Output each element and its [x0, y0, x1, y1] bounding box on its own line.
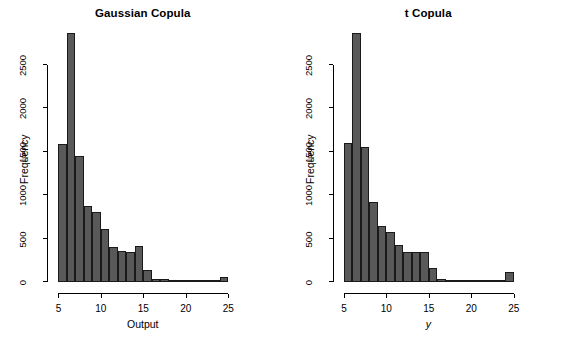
y-axis-tick-label: 2000 — [302, 92, 313, 126]
histogram-bar — [446, 280, 454, 282]
y-axis-title-gaussian: Frequency — [18, 134, 30, 184]
histogram-bar — [211, 280, 219, 282]
y-axis-tick — [329, 194, 333, 195]
histogram-bar — [344, 143, 352, 282]
histogram-bar — [58, 144, 66, 282]
x-axis-tick-label: 20 — [456, 303, 486, 314]
x-axis-title-gaussian: Output — [0, 318, 286, 330]
panel-title-gaussian: Gaussian Copula — [0, 7, 286, 19]
x-axis-tick-label: 5 — [329, 303, 359, 314]
panel-gaussian-copula: Gaussian Copula 050010001500200025005101… — [0, 0, 286, 337]
histogram-bar — [437, 279, 445, 282]
x-axis-tick-label: 15 — [414, 303, 444, 314]
histogram-bar — [386, 232, 394, 282]
x-axis-tick — [101, 294, 102, 298]
histogram-bar — [369, 202, 377, 282]
x-axis-title-t-copula: y — [286, 318, 571, 330]
histogram-bar — [160, 279, 168, 282]
histogram-bar — [429, 268, 437, 282]
y-axis-tick — [329, 281, 333, 282]
x-axis-tick-label: 25 — [499, 303, 529, 314]
y-axis-tick — [43, 64, 47, 65]
histogram-bar — [101, 229, 109, 282]
y-axis-tick — [43, 107, 47, 108]
histogram-bar — [488, 280, 496, 282]
bars-gaussian — [55, 30, 230, 282]
x-axis-tick — [186, 294, 187, 298]
y-axis-tick — [329, 107, 333, 108]
histogram-bar — [194, 280, 202, 282]
histogram-bar — [352, 33, 360, 282]
histogram-bar — [505, 272, 513, 282]
plot-area-t-copula: 05001000150020002500510152025 — [341, 30, 516, 282]
histogram-bar — [454, 280, 462, 282]
panel-title-t-copula: t Copula — [286, 7, 571, 19]
histogram-bar — [463, 280, 471, 282]
x-axis-tick-label: 20 — [171, 303, 201, 314]
histogram-bar — [92, 212, 100, 282]
histogram-bar — [412, 252, 420, 282]
histogram-bar — [378, 226, 386, 282]
histogram-bar — [126, 252, 134, 282]
histogram-bar — [67, 33, 75, 282]
y-axis-tick-label: 500 — [17, 222, 28, 256]
y-axis-line — [333, 65, 334, 282]
histogram-bar — [471, 280, 479, 282]
histogram-bar — [152, 279, 160, 282]
histogram-bar — [118, 251, 126, 282]
x-axis-tick — [58, 294, 59, 298]
histogram-bar — [84, 206, 92, 282]
histogram-bar — [203, 280, 211, 282]
histogram-bar — [109, 247, 117, 282]
x-axis-tick-label: 15 — [128, 303, 158, 314]
y-axis-tick — [43, 151, 47, 152]
panel-t-copula: t Copula 05001000150020002500510152025 F… — [286, 0, 571, 337]
histogram-bar — [361, 147, 369, 282]
histogram-bar — [75, 156, 83, 282]
x-axis-tick-label: 5 — [43, 303, 73, 314]
y-axis-tick — [329, 238, 333, 239]
y-axis-tick — [43, 238, 47, 239]
histogram-bar — [480, 280, 488, 282]
y-axis-title-t-copula: Frequency — [304, 134, 316, 184]
x-axis-tick-label: 10 — [86, 303, 116, 314]
y-axis-tick-label: 0 — [17, 266, 28, 300]
y-axis-tick-label: 0 — [302, 266, 313, 300]
y-axis-tick — [43, 281, 47, 282]
plot-area-gaussian: 05001000150020002500510152025 — [55, 30, 230, 282]
x-axis-tick — [228, 294, 229, 298]
x-axis-tick — [429, 294, 430, 298]
y-axis-line — [47, 65, 48, 282]
x-axis-tick — [386, 294, 387, 298]
y-axis-tick — [329, 151, 333, 152]
histogram-bar — [403, 252, 411, 282]
x-axis-tick — [514, 294, 515, 298]
histogram-bar — [420, 252, 428, 282]
y-axis-tick-label: 2500 — [17, 48, 28, 82]
x-axis-tick-label: 25 — [213, 303, 243, 314]
y-axis-tick-label: 2000 — [17, 92, 28, 126]
y-axis-tick — [43, 194, 47, 195]
histogram-bar — [220, 277, 228, 282]
histogram-bar — [395, 245, 403, 282]
histogram-figure: Gaussian Copula 050010001500200025005101… — [0, 0, 571, 337]
x-axis-tick-label: 10 — [371, 303, 401, 314]
histogram-bar — [177, 280, 185, 282]
histogram-bar — [169, 280, 177, 282]
y-axis-tick — [329, 64, 333, 65]
x-axis-tick — [143, 294, 144, 298]
x-axis-tick — [471, 294, 472, 298]
bars-t-copula — [341, 30, 516, 282]
y-axis-tick-label: 2500 — [302, 48, 313, 82]
histogram-bar — [143, 270, 151, 282]
x-axis-tick — [344, 294, 345, 298]
histogram-bar — [497, 280, 505, 282]
y-axis-tick-label: 500 — [302, 222, 313, 256]
histogram-bar — [135, 246, 143, 282]
histogram-bar — [186, 280, 194, 282]
